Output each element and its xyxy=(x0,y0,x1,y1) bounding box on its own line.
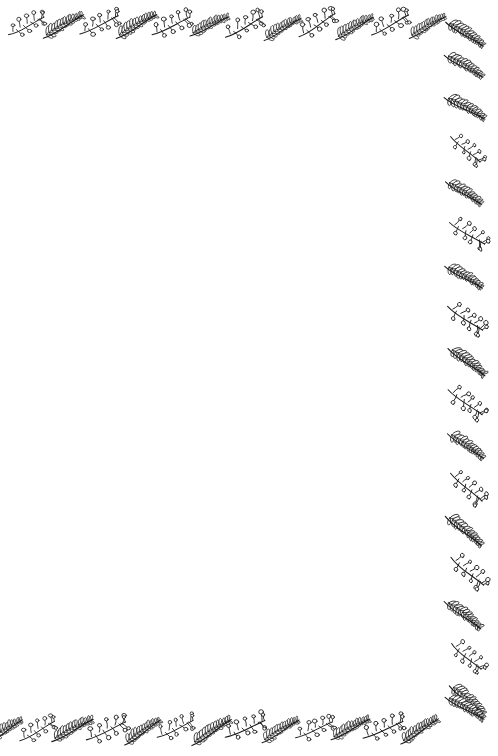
stationery-page xyxy=(0,0,498,756)
right-border xyxy=(434,0,498,756)
top-border xyxy=(0,0,498,56)
feather-sprig-right-13 xyxy=(440,588,488,642)
feather-sprig-bottom-12 xyxy=(397,712,444,748)
page-content-area[interactable] xyxy=(18,52,428,700)
berry-sprig-right-14 xyxy=(445,633,489,683)
bottom-border xyxy=(0,700,498,756)
